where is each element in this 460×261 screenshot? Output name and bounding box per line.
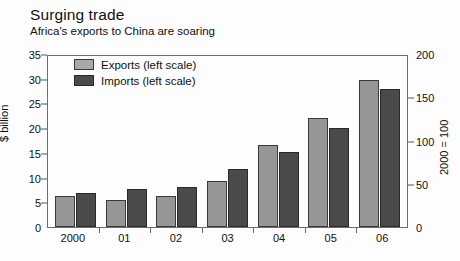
y-tick-right-50: 50 <box>416 179 446 191</box>
x-tick-separator <box>99 228 100 233</box>
bar-group-01 <box>106 189 147 227</box>
x-tick-separator <box>305 228 306 233</box>
x-tick-04: 04 <box>257 232 301 244</box>
y-tick-mark-right <box>408 98 414 99</box>
bar-imports-03[interactable] <box>228 169 248 227</box>
y-tick-right-0: 0 <box>416 222 446 234</box>
x-tick-02: 02 <box>154 232 198 244</box>
x-tick-03: 03 <box>206 232 250 244</box>
x-tick-06: 06 <box>360 232 404 244</box>
y-tick-left-30: 30 <box>17 74 41 86</box>
x-tick-separator <box>253 228 254 233</box>
legend-label-exports: Exports (left scale) <box>101 59 196 71</box>
x-tick-05: 05 <box>309 232 353 244</box>
x-tick-separator <box>356 228 357 233</box>
legend-swatch-imports <box>74 75 94 86</box>
y-tick-left-10: 10 <box>17 173 41 185</box>
y-axis-left-label: $ billion <box>0 105 10 142</box>
y-tick-left-20: 20 <box>17 123 41 135</box>
legend-swatch-exports <box>74 59 94 70</box>
legend-item-imports[interactable]: Imports (left scale) <box>74 74 196 87</box>
y-tick-left-0: 0 <box>17 222 41 234</box>
bar-imports-04[interactable] <box>279 152 299 227</box>
x-tick-01: 01 <box>102 232 146 244</box>
bar-group-05 <box>308 118 349 227</box>
page-title: Surging trade <box>30 6 124 24</box>
bar-exports-02[interactable] <box>156 196 176 227</box>
y-tick-right-100: 100 <box>416 136 446 148</box>
bar-group-06 <box>359 80 400 227</box>
y-tick-right-200: 200 <box>416 49 446 61</box>
page-subtitle: Africa's exports to China are soaring <box>30 25 215 37</box>
bar-group-02 <box>156 187 197 227</box>
bar-exports-2000[interactable] <box>55 196 75 227</box>
bar-group-2000 <box>55 193 96 227</box>
legend-label-imports: Imports (left scale) <box>101 75 196 87</box>
legend-item-exports[interactable]: Exports (left scale) <box>74 58 196 71</box>
bar-imports-02[interactable] <box>177 187 197 227</box>
chart-page: Surging trade Africa's exports to China … <box>0 0 460 261</box>
bar-exports-06[interactable] <box>359 80 379 227</box>
y-tick-left-15: 15 <box>17 148 41 160</box>
y-tick-left-25: 25 <box>17 98 41 110</box>
x-tick-2000: 2000 <box>51 232 95 244</box>
bar-exports-04[interactable] <box>258 145 278 227</box>
bar-exports-01[interactable] <box>106 200 126 227</box>
bar-exports-05[interactable] <box>308 118 328 227</box>
chart-legend: Exports (left scale)Imports (left scale) <box>74 58 196 90</box>
x-tick-separator <box>202 228 203 233</box>
y-tick-left-5: 5 <box>17 197 41 209</box>
y-tick-mark-right <box>408 184 414 185</box>
bar-imports-2000[interactable] <box>76 193 96 227</box>
bar-imports-05[interactable] <box>329 128 349 227</box>
y-tick-left-35: 35 <box>17 49 41 61</box>
bar-imports-06[interactable] <box>380 89 400 227</box>
x-tick-separator <box>150 228 151 233</box>
y-tick-mark-right <box>408 141 414 142</box>
y-tick-right-150: 150 <box>416 92 446 104</box>
bar-imports-01[interactable] <box>127 189 147 227</box>
bar-exports-03[interactable] <box>207 181 227 227</box>
bar-group-04 <box>258 145 299 227</box>
bar-group-03 <box>207 169 248 227</box>
